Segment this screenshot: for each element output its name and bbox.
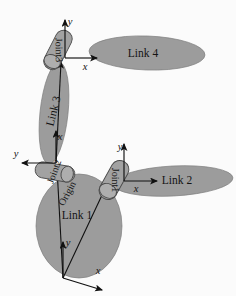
x-axis-arrow bbox=[63, 278, 102, 290]
robot-kinematic-diagram: Joint1Joint2Joint3 xyxyxyxy Link 1Link 2… bbox=[0, 0, 236, 296]
link-label-link2: Link 2 bbox=[162, 174, 193, 186]
diagram-canvas: Joint1Joint2Joint3 xyxyxyxy Link 1Link 2… bbox=[0, 0, 236, 296]
y-axis-label: y bbox=[65, 237, 71, 248]
link-label-link1: Link 1 bbox=[62, 209, 93, 221]
x-axis-label: x bbox=[57, 131, 63, 142]
joint-label-joint3: Joint3 bbox=[53, 38, 64, 63]
joint-label-joint1: Joint1 bbox=[110, 168, 121, 192]
y-axis-label: y bbox=[13, 148, 19, 159]
x-axis-label: x bbox=[133, 183, 139, 194]
links-group bbox=[35, 34, 234, 278]
joint-joint3: Joint3 bbox=[40, 27, 78, 74]
x-axis-label: x bbox=[82, 61, 88, 72]
x-axis-label: x bbox=[95, 265, 101, 276]
y-axis-label: y bbox=[117, 141, 123, 152]
link-label-link4: Link 4 bbox=[128, 47, 159, 59]
y-axis-label: y bbox=[67, 16, 73, 27]
